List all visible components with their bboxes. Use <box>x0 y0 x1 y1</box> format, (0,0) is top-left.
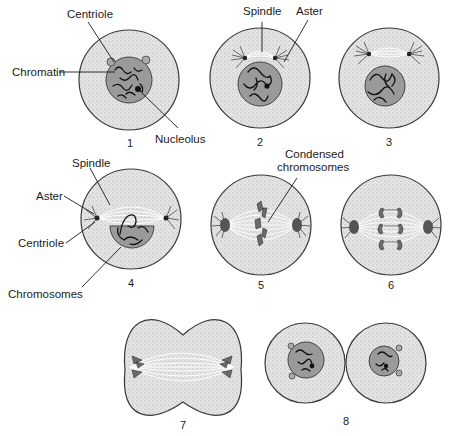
stage-5-cell <box>211 175 311 275</box>
label-nucleolus-1: Nucleolus <box>155 133 206 145</box>
label-spindle-2: Spindle <box>243 5 281 17</box>
stage-8-cells <box>265 323 426 403</box>
stage-number-7: 7 <box>180 419 186 431</box>
stage-4-cell <box>81 169 181 269</box>
stage-7-cell <box>124 320 241 416</box>
stage-number-5: 5 <box>258 279 264 291</box>
label-chromosomes-4: Chromosomes <box>8 288 83 300</box>
stage-number-6: 6 <box>388 279 394 291</box>
stage-6-cell <box>341 175 441 275</box>
label-aster-4: Aster <box>36 190 63 202</box>
mitosis-diagram: Centriole Chromatin Nucleolus 1 Spindle … <box>0 0 452 436</box>
stage-1-cell <box>79 30 179 130</box>
stage-number-1: 1 <box>127 137 133 149</box>
label-spindle-4: Spindle <box>72 157 110 169</box>
label-condensed-line1: Condensed <box>285 148 344 160</box>
label-centriole-1: Centriole <box>67 8 113 20</box>
label-condensed-line2: chromosomes <box>277 161 349 173</box>
label-chromatin-1: Chromatin <box>12 66 65 78</box>
centriole-icon <box>243 56 247 60</box>
centriole-icon <box>142 56 150 64</box>
stage-3-cell <box>339 28 439 128</box>
stage-number-3: 3 <box>386 136 392 148</box>
label-centriole-4: Centriole <box>18 237 64 249</box>
stage-number-4: 4 <box>128 277 134 289</box>
centriole-icon <box>273 56 277 60</box>
stage-number-8: 8 <box>343 415 349 427</box>
label-aster-2: Aster <box>296 5 323 17</box>
stage-number-2: 2 <box>257 136 263 148</box>
